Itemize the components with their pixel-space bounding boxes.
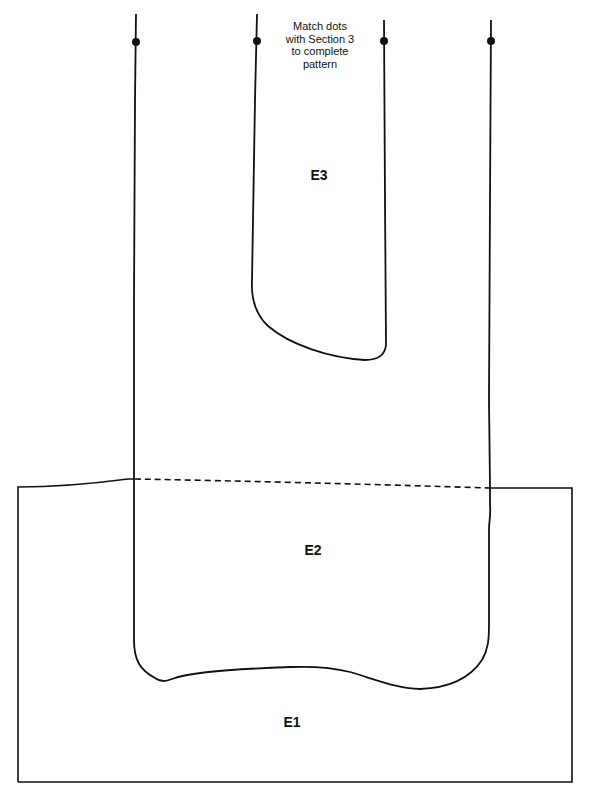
match-dot-1: [132, 38, 140, 46]
match-dots-note: Match dots with Section 3 to complete pa…: [265, 20, 375, 70]
match-dot-2: [253, 37, 261, 45]
note-line-1: Match dots: [265, 20, 375, 33]
match-dot-4: [487, 37, 495, 45]
outer-pattern-outline: [134, 14, 491, 689]
dashed-seam-line: [135, 479, 490, 488]
pattern-drawing: [0, 0, 593, 799]
note-line-3: to complete: [265, 45, 375, 58]
note-line-4: pattern: [265, 58, 375, 71]
label-e1: E1: [283, 714, 300, 730]
note-line-2: with Section 3: [265, 33, 375, 46]
label-e3: E3: [310, 167, 327, 183]
match-dot-3: [380, 37, 388, 45]
label-e2: E2: [304, 542, 321, 558]
